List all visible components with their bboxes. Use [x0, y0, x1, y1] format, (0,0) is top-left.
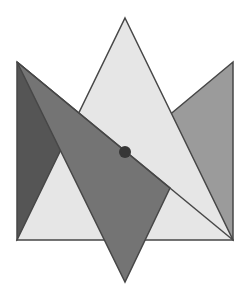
center-point	[119, 146, 131, 158]
diagram-canvas	[0, 0, 245, 293]
triangles-figure	[0, 0, 245, 293]
